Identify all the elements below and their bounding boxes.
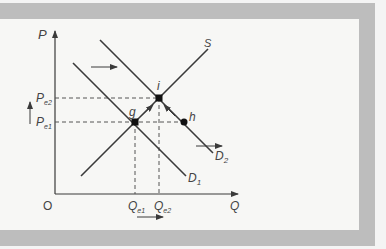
- point-h-label: h: [189, 110, 196, 124]
- x-axis-label: Q: [230, 199, 239, 213]
- origin-label: O: [43, 199, 52, 213]
- movement-arrow-g-to-i: [141, 105, 153, 116]
- y-axis-label: P: [38, 27, 47, 42]
- d1-label: D1: [188, 171, 201, 187]
- qe2-label: Qe2: [154, 199, 171, 214]
- qe1-label: Qe1: [128, 199, 145, 214]
- pe2-label-main: P: [36, 91, 44, 105]
- d2-label-sub: 2: [223, 156, 229, 165]
- qe1-label-main: Q: [128, 199, 137, 213]
- supply-demand-diagram: P Q O S D1 D2 i g h Pe2 Pe1 Qe1 Qe2: [0, 0, 386, 249]
- d1-label-main: D: [188, 171, 197, 185]
- d2-label-main: D: [215, 149, 224, 163]
- demand-curve-d1: [73, 63, 186, 176]
- pe1-label: Pe1: [36, 115, 52, 130]
- point-h: [181, 119, 188, 126]
- qe1-label-sub: e1: [137, 207, 145, 214]
- movement-arrow-h-to-i: [164, 105, 175, 116]
- pe2-label: Pe2: [36, 91, 52, 106]
- pe1-label-main: P: [36, 115, 44, 129]
- point-g-label: g: [129, 105, 136, 119]
- point-g: [132, 119, 139, 126]
- point-i: [156, 95, 163, 102]
- point-i-label: i: [157, 79, 160, 93]
- d1-label-sub: 1: [197, 178, 201, 187]
- d2-label: D2: [215, 149, 229, 165]
- supply-label: S: [204, 37, 212, 49]
- pe1-label-sub: e1: [44, 123, 52, 130]
- qe2-label-main: Q: [154, 199, 163, 213]
- qe2-label-sub: e2: [163, 207, 171, 214]
- pe2-label-sub: e2: [44, 99, 52, 106]
